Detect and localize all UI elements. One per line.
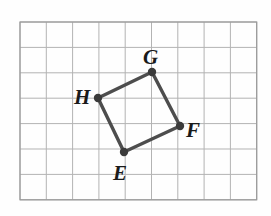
vertex-point-e: [120, 148, 128, 156]
vertex-point-h: [94, 94, 102, 102]
vertex-label-g: G: [143, 45, 158, 69]
vertex-label-f: F: [185, 118, 200, 142]
geometry-figure: EFGH: [0, 0, 271, 216]
vertex-label-e: E: [112, 161, 127, 185]
vertex-point-g: [148, 68, 156, 76]
vertex-label-h: H: [73, 85, 91, 109]
vertex-point-f: [176, 122, 184, 130]
figure-screenshot: EFGH: [0, 0, 271, 216]
